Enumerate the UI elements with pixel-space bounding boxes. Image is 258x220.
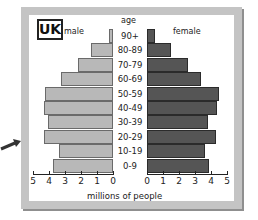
age-group-label: 80-89 <box>113 45 147 55</box>
female-bar <box>147 144 205 158</box>
male-bar <box>45 87 113 101</box>
male-bar <box>61 72 113 86</box>
x-tick-label: 4 <box>206 176 216 186</box>
male-bar <box>91 43 113 57</box>
age-group-label: 0-9 <box>113 161 147 171</box>
female-bar <box>147 72 201 86</box>
age-group-label: 70-79 <box>113 60 147 70</box>
x-tick <box>49 171 50 175</box>
x-tick-label: 2 <box>76 176 86 186</box>
chart-title: UK <box>37 19 63 40</box>
male-bar <box>78 58 113 72</box>
male-bar <box>53 159 113 173</box>
female-bar <box>147 101 217 115</box>
age-group-label: 50-59 <box>113 89 147 99</box>
female-bar <box>147 115 208 129</box>
female-bar <box>147 87 219 101</box>
x-tick-label: 5 <box>222 176 232 186</box>
female-x-axis <box>147 174 227 175</box>
chart-frame: UK male female age 90+80-8970-7960-6950-… <box>21 7 242 209</box>
x-tick-label: 2 <box>174 176 184 186</box>
male-x-axis <box>33 174 113 175</box>
x-tick <box>179 171 180 175</box>
chart-panel: UK male female age 90+80-8970-7960-6950-… <box>29 15 234 201</box>
x-tick-label: 1 <box>92 176 102 186</box>
male-bar <box>48 115 113 129</box>
x-tick-label: 0 <box>142 176 152 186</box>
x-tick <box>211 171 212 175</box>
female-bar <box>147 58 188 72</box>
x-tick-label: 4 <box>44 176 54 186</box>
x-tick <box>97 171 98 175</box>
arrow-icon <box>0 137 24 151</box>
x-tick <box>227 171 228 175</box>
x-tick <box>113 171 114 175</box>
x-tick <box>147 171 148 175</box>
age-axis-label: age <box>121 16 136 25</box>
x-tick-label: 0 <box>108 176 118 186</box>
female-bar <box>147 130 216 144</box>
x-tick-label: 1 <box>158 176 168 186</box>
female-bar <box>147 29 155 43</box>
age-group-label: 30-39 <box>113 117 147 127</box>
x-tick-label: 3 <box>60 176 70 186</box>
male-bar <box>44 130 113 144</box>
age-group-label: 90+ <box>113 31 147 41</box>
x-tick <box>81 171 82 175</box>
age-group-label: 10-19 <box>113 146 147 156</box>
x-tick <box>195 171 196 175</box>
x-tick <box>65 171 66 175</box>
male-bar <box>44 101 113 115</box>
x-tick-label: 5 <box>28 176 38 186</box>
female-bar <box>147 43 171 57</box>
male-bar <box>59 144 113 158</box>
x-axis-label: millions of people <box>87 191 162 201</box>
x-tick <box>33 171 34 175</box>
age-group-label: 40-49 <box>113 103 147 113</box>
male-label: male <box>64 27 84 36</box>
age-group-label: 60-69 <box>113 74 147 84</box>
x-tick <box>163 171 164 175</box>
female-label: female <box>173 27 201 36</box>
age-group-label: 20-29 <box>113 132 147 142</box>
x-tick-label: 3 <box>190 176 200 186</box>
